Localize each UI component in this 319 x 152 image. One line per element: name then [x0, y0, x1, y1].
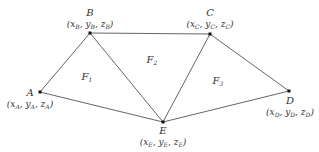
point-c-coords: (xC, yC, zC) [186, 19, 234, 30]
edge-a-e [40, 92, 163, 122]
vertex-d [288, 90, 291, 93]
point-c-name: C [206, 7, 214, 18]
point-e-name: E [158, 125, 167, 136]
edge-b-e [90, 33, 163, 122]
vertex-a [39, 91, 42, 94]
vertex-e [162, 121, 165, 124]
point-a-coords: (xA, yA, zA) [7, 99, 54, 110]
edge-c-e [163, 34, 210, 122]
edges [40, 33, 289, 122]
point-e-coords: (xE, yE, zE) [140, 137, 187, 148]
face-label-f1: F1 [81, 71, 93, 83]
face-label-f3: F3 [212, 75, 224, 87]
point-d-coords: (xD, yD, zD) [266, 107, 314, 118]
point-a-name: A [25, 87, 33, 98]
surface-diagram: B (xB, yB, zB) C (xC, yC, zC) A (xA, yA,… [0, 0, 319, 152]
point-d-name: D [285, 95, 294, 106]
vertex-b [89, 32, 92, 35]
edge-b-c [90, 33, 210, 34]
face-label-f2: F2 [146, 54, 158, 66]
point-b-name: B [85, 7, 93, 18]
vertices [39, 32, 291, 124]
point-b-coords: (xB, yB, zB) [67, 19, 114, 30]
vertex-c [209, 33, 212, 36]
edge-a-b [40, 33, 90, 92]
